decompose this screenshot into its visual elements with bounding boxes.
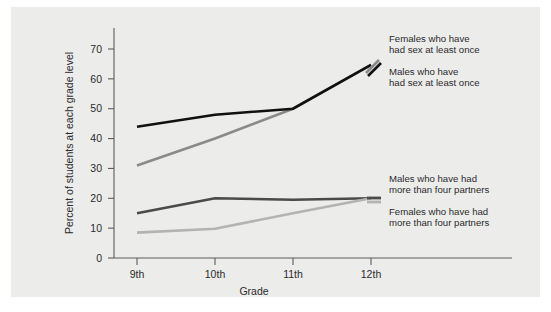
chart-figure: 0 10 20 30 40 50 60 70 9th 10th 11th 12t… (0, 0, 551, 312)
x-tick-label-12th: 12th (361, 268, 382, 280)
y-tick-label-60: 60 (90, 73, 102, 85)
y-tick-label-40: 40 (90, 132, 102, 144)
series-line-females-sex-once (137, 65, 371, 165)
x-tick-label-11th: 11th (283, 268, 303, 280)
y-tick-label-70: 70 (90, 43, 102, 55)
annotation-females-four-partners-line1: Females who have had (389, 206, 488, 217)
annotation-males-four-partners-line2: more than four partners (389, 184, 489, 195)
x-tick-label-9th: 9th (130, 268, 145, 280)
annotation-males-four-partners-line1: Males who have had (389, 173, 477, 184)
annotation-females-sex-once-line1: Females who have (389, 33, 470, 44)
line-chart-plot: 0 10 20 30 40 50 60 70 9th 10th 11th 12t… (0, 0, 551, 312)
y-tick-label-30: 30 (90, 162, 102, 174)
y-axis-title: Percent of students at each grade level (63, 52, 75, 234)
y-tick-label-20: 20 (90, 192, 102, 204)
series-line-females-four-partners (137, 198, 371, 232)
x-axis-title: Grade (239, 285, 268, 297)
y-tick-label-0: 0 (96, 252, 102, 264)
annotation-males-sex-once-line1: Males who have (389, 66, 458, 77)
y-tick-label-50: 50 (90, 102, 102, 114)
x-tick-label-10th: 10th (205, 268, 226, 280)
annotation-males-sex-once-line2: had sex at least once (389, 77, 480, 88)
series-line-males-sex-once (137, 65, 371, 127)
annotation-females-four-partners-line2: more than four partners (389, 217, 489, 228)
y-tick-label-10: 10 (90, 222, 102, 234)
annotation-females-sex-once-line2: had sex at least once (389, 44, 480, 55)
